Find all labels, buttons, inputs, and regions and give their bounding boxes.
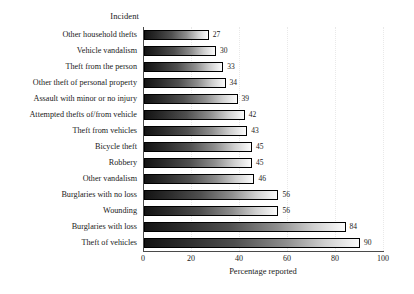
gridline [335,27,336,251]
y-axis-title: Incident [0,11,143,21]
bar [144,174,254,184]
gridline [191,27,192,251]
x-axis-title: Percentage reported [143,266,383,276]
bar-value-label: 56 [282,206,290,216]
bar-value-label: 42 [249,110,257,120]
bar [144,142,252,152]
bar-value-label: 30 [220,46,228,56]
bar-row: 56 [143,206,383,216]
bar-row: 42 [143,110,383,120]
bar-value-label: 45 [256,142,264,152]
x-tick-label: 80 [331,254,339,264]
category-label: Theft from the person [0,62,140,72]
bar-row: 46 [143,174,383,184]
bar-chart: Incident 2730333439424345454656568490 Pe… [0,0,414,294]
x-tick-label: 60 [283,254,291,264]
category-label: Vehicle vandalism [0,46,140,56]
bar-value-label: 46 [258,174,266,184]
bar [144,190,278,200]
bar [144,46,216,56]
bar-value-label: 84 [350,222,358,232]
category-label: Assault with minor or no injury [0,94,140,104]
bar [144,126,247,136]
x-tick-label: 40 [235,254,243,264]
bar-value-label: 43 [251,126,259,136]
category-label: Other vandalism [0,174,140,184]
x-tick-label: 100 [377,254,389,264]
bar-value-label: 33 [227,62,235,72]
category-label: Wounding [0,206,140,216]
bar-value-label: 39 [242,94,250,104]
category-label: Burglaries with loss [0,222,140,232]
bar-value-label: 27 [213,30,221,40]
category-label: Robbery [0,158,140,168]
x-tick-label: 20 [187,254,195,264]
bar-row: 27 [143,30,383,40]
category-axis-line [143,27,144,251]
plot-area: 2730333439424345454656568490 [143,27,383,251]
bar-value-label: 90 [364,238,372,248]
bar-value-label: 34 [230,78,238,88]
bar [144,110,245,120]
bar-row: 43 [143,126,383,136]
category-label: Burglaries with no loss [0,190,140,200]
bar-row: 45 [143,142,383,152]
bar [144,238,360,248]
value-axis-line [143,251,384,252]
bar [144,30,209,40]
category-label: Other household thefts [0,30,140,40]
bar-row: 90 [143,238,383,248]
bar-row: 56 [143,190,383,200]
category-label: Theft of vehicles [0,238,140,248]
bar-row: 84 [143,222,383,232]
bar [144,222,346,232]
category-label: Other theft of personal property [0,78,140,88]
bar-row: 33 [143,62,383,72]
bar [144,78,226,88]
category-label: Theft from vehicles [0,126,140,136]
gridline [239,27,240,251]
bar [144,158,252,168]
bar [144,94,238,104]
bar-row: 34 [143,78,383,88]
x-tick-label: 0 [141,254,145,264]
gridline [287,27,288,251]
bar [144,62,223,72]
bar-row: 30 [143,46,383,56]
bar-row: 45 [143,158,383,168]
category-label: Bicycle theft [0,142,140,152]
bar-value-label: 56 [282,190,290,200]
bar [144,206,278,216]
gridline [383,27,384,251]
bar-value-label: 45 [256,158,264,168]
category-label: Attempted thefts of/from vehicle [0,110,140,120]
bar-row: 39 [143,94,383,104]
